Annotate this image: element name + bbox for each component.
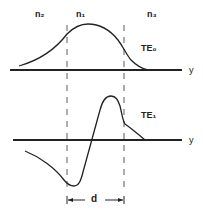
mode-label-te0: TE₀ xyxy=(141,44,157,53)
region-label-n2: n₂ xyxy=(35,10,45,19)
region-label-n3: n₃ xyxy=(147,10,157,19)
mode-label-te1: TE₁ xyxy=(141,111,156,120)
dimension-right-arrowhead xyxy=(118,198,123,202)
bottom-axis-label: y xyxy=(189,136,194,145)
top-axis-label: y xyxy=(189,66,194,75)
waveguide-mode-diagram xyxy=(0,0,203,215)
region-label-n1: n₁ xyxy=(76,10,85,19)
te1-mode-curve xyxy=(25,96,145,186)
te0-mode-curve xyxy=(19,24,148,70)
dimension-left-arrowhead xyxy=(68,198,73,202)
dimension-label-d: d xyxy=(91,194,97,204)
